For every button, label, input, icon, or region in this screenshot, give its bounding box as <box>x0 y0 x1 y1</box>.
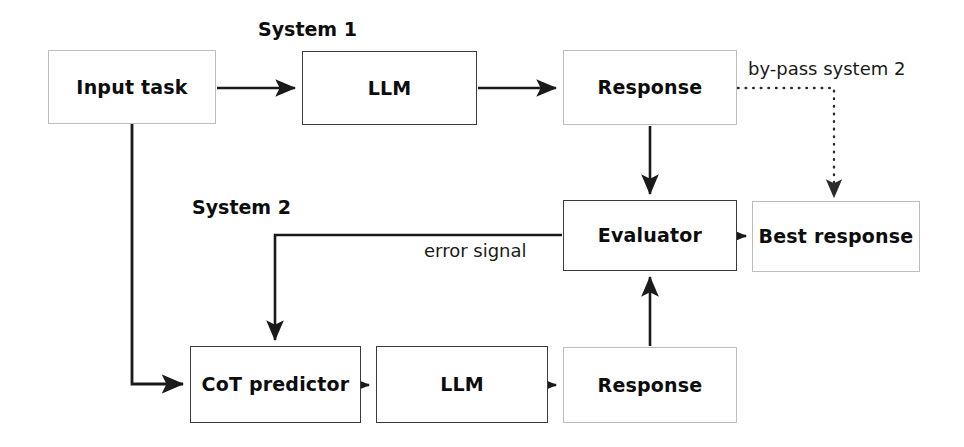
node-evaluator[interactable]: Evaluator <box>563 200 737 271</box>
node-label-response-system1: Response <box>598 77 703 98</box>
edge-response-system1-to-best-response <box>738 88 834 195</box>
node-llm-system1[interactable]: LLM <box>302 51 477 125</box>
diagram-canvas: System 1 System 2 by-pass system 2 error… <box>0 0 964 447</box>
node-label-response-system2: Response <box>598 375 703 396</box>
group-label-system-2: System 2 <box>192 196 291 218</box>
node-label-llm-system1: LLM <box>368 78 412 99</box>
edge-label-bypass-system-2: by-pass system 2 <box>748 58 905 79</box>
node-label-evaluator: Evaluator <box>598 225 702 246</box>
edge-label-error-signal: error signal <box>424 240 527 261</box>
node-input-task[interactable]: Input task <box>48 50 216 124</box>
node-label-input-task: Input task <box>76 77 187 98</box>
node-best-response[interactable]: Best response <box>752 201 920 272</box>
edge-input-task-to-cot-predictor <box>132 124 183 384</box>
node-response-system2[interactable]: Response <box>563 347 737 423</box>
group-label-system-1: System 1 <box>258 18 357 40</box>
node-label-llm-system2: LLM <box>440 374 484 395</box>
node-label-best-response: Best response <box>759 226 914 247</box>
node-label-cot-predictor: CoT predictor <box>202 374 350 395</box>
node-response-system1[interactable]: Response <box>563 50 737 125</box>
node-llm-system2[interactable]: LLM <box>376 346 548 423</box>
node-cot-predictor[interactable]: CoT predictor <box>190 346 361 423</box>
